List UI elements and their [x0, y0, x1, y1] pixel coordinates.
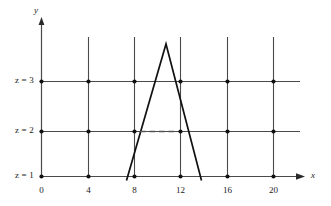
z-level-label-z1: z = 1 — [0, 170, 34, 180]
x-axis-label: x — [311, 170, 315, 180]
grid-node-dot — [39, 79, 43, 83]
grid-node-dot — [178, 79, 182, 83]
grid-node-dot — [86, 174, 90, 178]
x-tick-label-20: 20 — [262, 185, 286, 195]
y-axis — [39, 17, 45, 177]
y-axis-label: y — [34, 5, 38, 15]
grid-node-dot — [271, 129, 275, 133]
grid-node-dot — [86, 79, 90, 83]
z-level-label-z2: z = 2 — [0, 125, 34, 135]
x-tick-label-4: 4 — [77, 185, 101, 195]
grid-node-dot — [132, 79, 136, 83]
plot-svg — [0, 0, 331, 206]
x-tick-label-8: 8 — [123, 185, 147, 195]
grid-node-dot — [39, 174, 43, 178]
grid-node-dot — [271, 79, 275, 83]
grid-node-dots — [39, 79, 275, 178]
x-tick-label-12: 12 — [169, 185, 193, 195]
y-axis-arrowhead — [39, 17, 45, 25]
z-level-label-z3: z = 3 — [0, 75, 34, 85]
triangular-function-curve — [127, 44, 202, 181]
grid-node-dot — [225, 129, 229, 133]
grid-node-dot — [39, 129, 43, 133]
horizontal-gridlines — [42, 82, 301, 132]
grid-node-dot — [178, 174, 182, 178]
x-axis-arrowhead — [296, 173, 305, 179]
grid-node-dot — [271, 174, 275, 178]
x-tick-label-16: 16 — [216, 185, 240, 195]
figure-canvas: y x z = 3 z = 2 z = 1 0 4 8 12 16 20 — [0, 0, 331, 206]
grid-node-dot — [225, 79, 229, 83]
grid-node-dot — [225, 174, 229, 178]
x-tick-label-0: 0 — [30, 185, 54, 195]
x-axis — [42, 173, 306, 179]
grid-node-dot — [178, 129, 182, 133]
vertical-gridlines — [89, 37, 274, 177]
grid-node-dot — [132, 174, 136, 178]
grid-node-dot — [132, 129, 136, 133]
grid-node-dot — [86, 129, 90, 133]
